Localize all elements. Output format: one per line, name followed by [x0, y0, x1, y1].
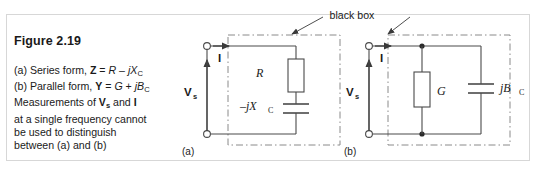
leader-line-to-box-a	[292, 17, 323, 34]
black-box-outline-a	[228, 35, 340, 145]
source-label-a: V	[184, 86, 192, 98]
figure-2-19-container: Figure 2.19 (a) Series form, Z = R – jXC…	[0, 0, 538, 174]
conductance-symbol-b	[414, 72, 430, 107]
current-label-a: I	[218, 52, 221, 64]
black-box-label: black box	[330, 9, 375, 21]
circuit-a: I V s R –jX C (a)	[182, 35, 340, 157]
susceptance-label-b: jB	[498, 81, 511, 95]
source-sublabel-a: s	[193, 92, 197, 101]
source-label-b: V	[346, 86, 354, 98]
terminal-bottom-a	[204, 131, 211, 138]
source-sublabel-b: s	[355, 92, 359, 101]
leader-line-to-box-b	[388, 17, 410, 34]
terminal-bottom-b	[366, 131, 373, 138]
circuit-drawing-layer: black box I V s R	[0, 0, 538, 174]
circuit-b: I V s G jB C (b)	[344, 35, 524, 157]
terminal-top-b	[366, 43, 373, 50]
capacitor-sublabel-a: C	[268, 106, 273, 115]
susceptance-sublabel-b: C	[519, 88, 524, 97]
resistor-symbol-a	[288, 59, 304, 92]
current-label-b: I	[380, 52, 383, 64]
conductance-label-b: G	[437, 84, 446, 98]
resistor-label-a: R	[255, 66, 264, 80]
panel-label-a: (a)	[182, 146, 194, 157]
black-box-outline-b	[388, 35, 510, 145]
terminal-top-a	[204, 43, 211, 50]
panel-label-b: (b)	[344, 146, 356, 157]
capacitor-label-a: –jX	[239, 99, 257, 113]
